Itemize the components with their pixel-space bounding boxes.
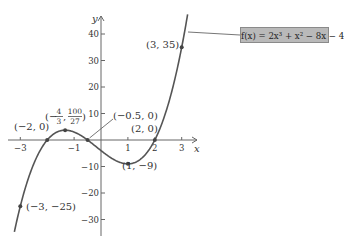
function-label: f(x) = 2x³ + x² − 8x − 4 xyxy=(241,31,344,41)
y-tick-label: 40 xyxy=(88,29,99,39)
point-label: (−3, −25) xyxy=(26,201,76,212)
x-tick-label: −1 xyxy=(68,143,81,153)
y-tick-label: 10 xyxy=(88,109,99,119)
x-tick-label: 1 xyxy=(125,143,130,153)
data-point xyxy=(153,138,157,142)
point-label-fraction: (−43,10027) xyxy=(45,107,86,126)
data-point xyxy=(86,138,90,142)
y-tick-label: −10 xyxy=(81,162,99,172)
label-close: ) xyxy=(82,111,86,122)
frac-den: 3 xyxy=(57,117,62,126)
data-point xyxy=(18,204,22,208)
y-axis-label: y xyxy=(91,13,98,24)
y-tick-label: −30 xyxy=(81,215,99,225)
point-label: (3, 35) xyxy=(146,39,179,50)
y-tick-label: 30 xyxy=(88,56,99,66)
leader-line-legend xyxy=(188,32,240,35)
point-label: (−2, 0) xyxy=(14,121,49,132)
frac-num: 4 xyxy=(57,107,62,116)
y-tick-label: −20 xyxy=(81,188,99,198)
data-point xyxy=(63,128,67,132)
function-legend: f(x) = 2x³ + x² − 8x − 4 xyxy=(240,27,329,43)
label-comma: , xyxy=(63,111,66,122)
x-axis-label: x xyxy=(194,143,200,154)
point-label: (−0.5, 0) xyxy=(113,110,158,121)
y-tick-label: 20 xyxy=(88,82,99,92)
x-tick-label: −3 xyxy=(14,143,27,153)
data-point xyxy=(180,45,184,49)
data-point xyxy=(45,138,49,142)
x-tick-label: 3 xyxy=(179,143,184,153)
frac-num: 100 xyxy=(68,107,83,116)
point-label: (2, 0) xyxy=(131,123,158,134)
point-label: (1, −9) xyxy=(122,160,157,171)
frac-den: 27 xyxy=(70,117,80,126)
